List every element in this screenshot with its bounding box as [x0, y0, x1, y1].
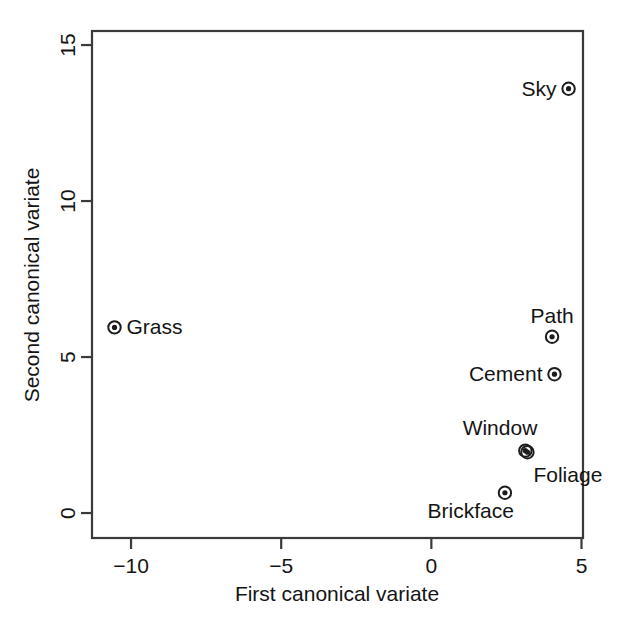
x-tick-label: −5: [269, 554, 293, 577]
point-label-foliage: Foliage: [533, 463, 602, 486]
marker-center-dot: [552, 372, 557, 377]
point-label-brickface: Brickface: [428, 499, 514, 522]
x-tick-label: 0: [426, 554, 438, 577]
point-label-grass: Grass: [127, 315, 183, 338]
point-label-path: Path: [530, 304, 573, 327]
marker-center-dot: [112, 325, 117, 330]
scatter-plot-figure: −10−505 051015 SkyGrassPathCementWindowF…: [0, 0, 619, 630]
y-tick-label: 10: [56, 189, 79, 212]
marker-center-dot: [566, 86, 571, 91]
y-tick-label: 0: [56, 507, 79, 519]
marker-center-dot: [525, 450, 530, 455]
canonical-variate-scatter-chart: −10−505 051015 SkyGrassPathCementWindowF…: [0, 0, 619, 630]
y-tick-label: 15: [56, 33, 79, 56]
y-axis-title: Second canonical variate: [20, 168, 43, 403]
x-tick-label: 5: [576, 554, 588, 577]
point-label-sky: Sky: [522, 77, 558, 100]
marker-center-dot: [549, 334, 554, 339]
x-axis-title: First canonical variate: [235, 582, 439, 605]
x-tick-label: −10: [113, 554, 149, 577]
marker-center-dot: [502, 490, 507, 495]
y-tick-label: 5: [56, 351, 79, 363]
point-label-cement: Cement: [469, 362, 543, 385]
point-label-window: Window: [463, 416, 539, 439]
